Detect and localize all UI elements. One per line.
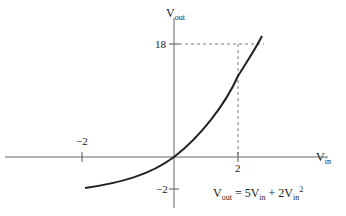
x-tick-label-2: 2 bbox=[235, 162, 241, 174]
x-tick-label-neg2: −2 bbox=[76, 135, 88, 147]
y-tick-label-neg2: −2 bbox=[156, 183, 168, 195]
y-tick-label-18: 18 bbox=[155, 38, 167, 50]
chart: −2 2 18 −2 Vout Vin Vout = 5Vin + 2Vin2 bbox=[0, 0, 346, 216]
x-axis-label: Vin bbox=[316, 150, 331, 166]
equation: Vout = 5Vin + 2Vin2 bbox=[213, 185, 303, 203]
y-axis-label: Vout bbox=[166, 6, 186, 22]
